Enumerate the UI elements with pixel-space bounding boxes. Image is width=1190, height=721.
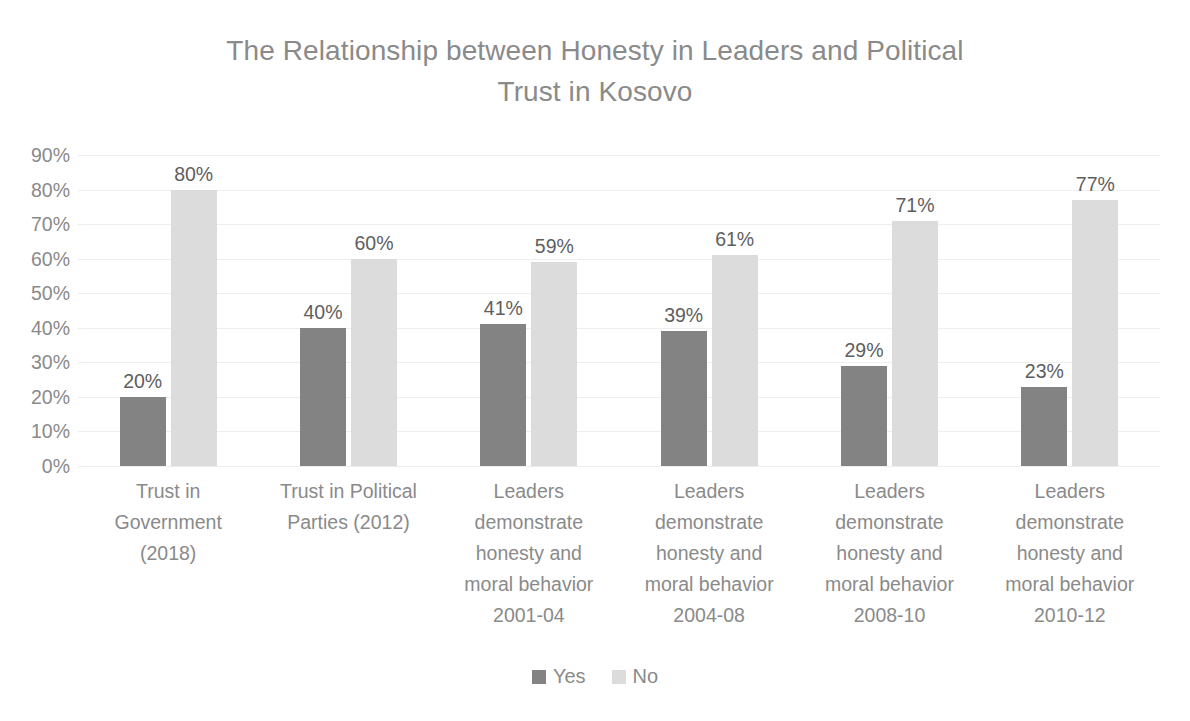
bar-group-bars: 20%80%: [78, 155, 258, 466]
y-axis-tick-label: 40%: [12, 316, 70, 339]
legend-item-yes[interactable]: Yes: [532, 665, 586, 688]
bar-yes[interactable]: [1021, 387, 1067, 466]
y-axis: 90%80%70%60%50%40%30%20%10%0%: [12, 155, 70, 466]
y-axis-tick-label: 20%: [12, 385, 70, 408]
bar-group-bars: 41%59%: [439, 155, 619, 466]
bar-slot: 61%: [712, 155, 758, 466]
bar-yes[interactable]: [300, 328, 346, 466]
x-axis-category-label: Leaders demonstrate honesty and moral be…: [439, 476, 619, 641]
legend-swatch-icon: [532, 670, 546, 684]
y-axis-tick-label: 80%: [12, 178, 70, 201]
bar-group: 29%71%: [799, 155, 979, 466]
bar-group: 20%80%: [78, 155, 258, 466]
bar-yes[interactable]: [120, 397, 166, 466]
bar-value-label: 61%: [690, 228, 780, 251]
y-axis-tick-label: 90%: [12, 144, 70, 167]
bar-slot: 59%: [531, 155, 577, 466]
y-axis-tick-label: 30%: [12, 351, 70, 374]
y-axis-tick-label: 60%: [12, 247, 70, 270]
bar-no[interactable]: [351, 259, 397, 466]
bar-yes[interactable]: [661, 331, 707, 466]
bar-group-bars: 39%61%: [619, 155, 799, 466]
bar-value-label: 71%: [870, 194, 960, 217]
chart-container: The Relationship between Honesty in Lead…: [0, 0, 1190, 721]
y-axis-tick-label: 70%: [12, 213, 70, 236]
bar-group: 41%59%: [439, 155, 619, 466]
bar-slot: 71%: [892, 155, 938, 466]
bar-value-label: 77%: [1050, 173, 1140, 196]
chart-title: The Relationship between Honesty in Lead…: [95, 30, 1095, 112]
bar-slot: 60%: [351, 155, 397, 466]
x-axis: Trust in Government (2018)Trust in Polit…: [78, 476, 1160, 641]
bar-value-label: 60%: [329, 232, 419, 255]
bar-value-label: 80%: [149, 163, 239, 186]
y-axis-tick-label: 10%: [12, 420, 70, 443]
bar-slot: 77%: [1072, 155, 1118, 466]
bar-no[interactable]: [531, 262, 577, 466]
bar-slot: 23%: [1021, 155, 1067, 466]
bar-no[interactable]: [1072, 200, 1118, 466]
bar-group-bars: 29%71%: [799, 155, 979, 466]
bar-slot: 41%: [480, 155, 526, 466]
bar-groups: 20%80%40%60%41%59%39%61%29%71%23%77%: [78, 155, 1160, 466]
bar-slot: 80%: [171, 155, 217, 466]
bar-yes[interactable]: [480, 324, 526, 466]
bar-value-label: 59%: [509, 235, 599, 258]
legend-label: No: [633, 665, 659, 688]
legend-swatch-icon: [612, 670, 626, 684]
bar-group-bars: 23%77%: [980, 155, 1160, 466]
x-axis-category-label: Leaders demonstrate honesty and moral be…: [619, 476, 799, 641]
bar-slot: 40%: [300, 155, 346, 466]
bar-group-bars: 40%60%: [258, 155, 438, 466]
bar-group: 23%77%: [980, 155, 1160, 466]
legend-label: Yes: [553, 665, 586, 688]
bar-no[interactable]: [892, 221, 938, 466]
bar-no[interactable]: [712, 255, 758, 466]
y-axis-tick-label: 50%: [12, 282, 70, 305]
bar-no[interactable]: [171, 190, 217, 466]
x-axis-category-label: Leaders demonstrate honesty and moral be…: [980, 476, 1160, 641]
bar-slot: 39%: [661, 155, 707, 466]
bar-group: 39%61%: [619, 155, 799, 466]
bar-yes[interactable]: [841, 366, 887, 466]
bar-group: 40%60%: [258, 155, 438, 466]
y-axis-tick-label: 0%: [12, 455, 70, 478]
x-axis-category-label: Trust in Government (2018): [78, 476, 258, 641]
gridline: [78, 466, 1160, 467]
chart-legend: YesNo: [0, 665, 1190, 688]
legend-item-no[interactable]: No: [612, 665, 659, 688]
x-axis-category-label: Trust in Political Parties (2012): [258, 476, 438, 641]
x-axis-category-label: Leaders demonstrate honesty and moral be…: [799, 476, 979, 641]
bar-slot: 20%: [120, 155, 166, 466]
